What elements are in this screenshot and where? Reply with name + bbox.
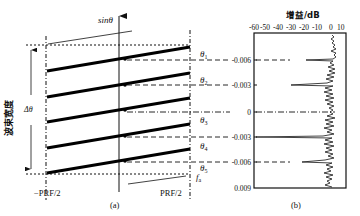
axis-intersections: [123, 57, 127, 163]
theta-4-label: θ4: [200, 141, 207, 152]
slope-indicator-bottom: [128, 176, 186, 184]
gain-curve: [256, 35, 336, 187]
svg-text:0: 0: [329, 23, 333, 32]
svg-text:0: 0: [247, 108, 251, 117]
diagram-canvas: sinθ Δθ 波束宽度 −PRF/2 PRF/2 (a): [0, 0, 360, 216]
svg-text:-60: -60: [249, 23, 259, 32]
panel-a: sinθ Δθ 波束宽度 −PRF/2 PRF/2 (a): [3, 15, 202, 210]
svg-text:-40: -40: [273, 23, 283, 32]
svg-text:-30: -30: [286, 23, 296, 32]
delta-theta-label: Δθ: [23, 105, 33, 114]
beam-width-label: 波束宽度: [3, 99, 14, 136]
svg-text:-0.006: -0.006: [232, 56, 252, 65]
theta-3-label: θ3: [200, 115, 207, 126]
svg-text:-0.003: -0.003: [232, 81, 252, 90]
sin-theta-label: sinθ: [98, 15, 114, 25]
panel-b: 增益/dB -60 -50 -40 -30 -20 -10 0 10 -0.00…: [232, 10, 346, 210]
caption-b: (b): [291, 200, 301, 210]
theta-2-label: θ2: [200, 75, 207, 86]
theta-5-label: θ5: [200, 163, 207, 174]
gain-title: 增益/dB: [286, 10, 320, 20]
theta-labels: θ1 θ2 θ3 θ4 θ5: [200, 49, 207, 174]
svg-text:10: 10: [337, 23, 345, 32]
minus-prf-half-label: −PRF/2: [34, 188, 61, 198]
x-tick-labels: -60 -50 -40 -30 -20 -10 0 10: [249, 23, 345, 32]
inner-dashes: [256, 60, 335, 162]
svg-text:-20: -20: [299, 23, 309, 32]
prf-half-label: PRF/2: [160, 188, 182, 198]
caption-a: (a): [110, 200, 120, 210]
theta-1-label: θ1: [200, 49, 207, 60]
y-tick-labels: -0.006 -0.003 0 -0.003 -0.006 0.009: [232, 56, 252, 193]
fa-label: fa: [196, 172, 202, 183]
svg-text:-0.006: -0.006: [232, 158, 252, 167]
svg-text:-10: -10: [312, 23, 322, 32]
svg-text:-50: -50: [260, 23, 270, 32]
svg-text:0.009: 0.009: [234, 184, 251, 193]
svg-text:-0.003: -0.003: [232, 133, 252, 142]
